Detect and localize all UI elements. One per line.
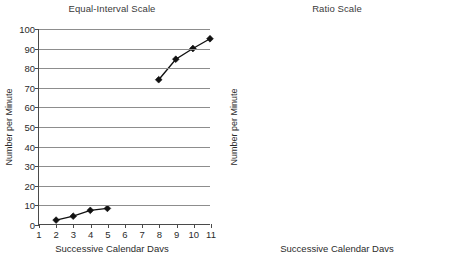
chart-title-ratio: Ratio Scale	[225, 3, 449, 14]
gridline-horizontal	[39, 186, 210, 187]
y-tick-mark	[35, 49, 39, 50]
chart-panel-equal-interval: Equal-Interval Scale Number per Minute 0…	[0, 0, 224, 265]
gridline-horizontal	[39, 147, 210, 148]
y-tick-label: 10	[24, 200, 35, 211]
y-tick-label: 100	[19, 24, 35, 35]
gridline-horizontal	[39, 29, 210, 30]
x-tick-label: 1	[36, 229, 41, 240]
x-tick-mark	[39, 224, 40, 228]
y-tick-label: 60	[24, 102, 35, 113]
x-tick-mark	[73, 224, 74, 228]
gridline-horizontal	[39, 127, 210, 128]
chart-panel-ratio: Ratio Scale Number per Minute 1101001234…	[225, 0, 449, 265]
y-tick-label: 90	[24, 43, 35, 54]
gridline-horizontal	[39, 68, 210, 69]
series-line-baseline-phase	[56, 208, 107, 220]
y-tick-mark	[35, 186, 39, 187]
x-tick-mark	[142, 224, 143, 228]
x-tick-label: 11	[206, 229, 216, 240]
y-axis-label-text: Number per Minute	[4, 88, 14, 165]
y-tick-label: 70	[24, 82, 35, 93]
data-point-marker	[53, 217, 60, 224]
x-tick-mark	[194, 224, 195, 228]
gridline-horizontal	[39, 88, 210, 89]
data-point-marker	[155, 76, 162, 83]
x-axis-label-ratio: Successive Calendar Davs	[225, 243, 449, 254]
two-panel-figure: Equal-Interval Scale Number per Minute 0…	[0, 0, 449, 265]
y-tick-label: 50	[24, 122, 35, 133]
y-tick-mark	[35, 107, 39, 108]
y-tick-label: 20	[24, 180, 35, 191]
x-tick-label: 6	[122, 229, 127, 240]
x-tick-label: 2	[54, 229, 59, 240]
y-tick-label: 30	[24, 161, 35, 172]
y-tick-label: 40	[24, 141, 35, 152]
chart-title-equal-interval: Equal-Interval Scale	[0, 3, 224, 14]
y-tick-mark	[35, 29, 39, 30]
y-tick-mark	[35, 147, 39, 148]
y-tick-label: 80	[24, 63, 35, 74]
y-tick-mark	[35, 88, 39, 89]
y-tick-mark	[35, 205, 39, 206]
y-tick-mark	[35, 166, 39, 167]
x-tick-label: 9	[174, 229, 179, 240]
x-axis-label-equal-interval: Successive Calendar Davs	[0, 243, 224, 254]
x-tick-mark	[211, 224, 212, 228]
series-line-treatment-phase	[159, 39, 210, 80]
x-tick-label: 5	[105, 229, 110, 240]
y-axis-label-text: Number per Minute	[229, 88, 239, 165]
x-tick-mark	[177, 224, 178, 228]
gridline-horizontal	[39, 107, 210, 108]
x-tick-label: 8	[157, 229, 162, 240]
y-axis-label-ratio: Number per Minute	[227, 52, 241, 202]
x-tick-mark	[108, 224, 109, 228]
data-point-marker	[87, 207, 94, 214]
gridline-horizontal	[39, 205, 210, 206]
x-tick-label: 3	[71, 229, 76, 240]
y-axis-label-equal-interval: Number per Minute	[2, 52, 16, 202]
gridline-horizontal	[39, 166, 210, 167]
x-tick-mark	[91, 224, 92, 228]
data-point-marker	[172, 56, 179, 63]
gridline-horizontal	[39, 49, 210, 50]
x-tick-mark	[56, 224, 57, 228]
x-tick-mark	[159, 224, 160, 228]
y-tick-mark	[35, 127, 39, 128]
data-point-marker	[70, 213, 77, 220]
y-tick-label: 0	[30, 220, 35, 231]
x-tick-mark	[125, 224, 126, 228]
x-tick-label: 10	[189, 229, 200, 240]
y-tick-mark	[35, 68, 39, 69]
data-point-marker	[207, 35, 214, 42]
plot-area-equal-interval: 01020304050607080901001234567891011	[38, 29, 210, 225]
x-tick-label: 7	[140, 229, 145, 240]
x-tick-label: 4	[88, 229, 93, 240]
